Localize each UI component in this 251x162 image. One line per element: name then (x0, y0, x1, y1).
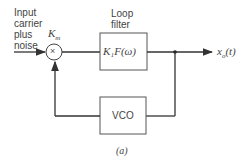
input-label: Input carrier plus noise (14, 7, 42, 51)
output-argument: (t) (225, 45, 235, 57)
loop-filter-title-line: filter (111, 19, 133, 30)
input-label-line: noise (14, 40, 42, 51)
pll-block-diagram: Input carrier plus noise Km × Loop filte… (0, 0, 251, 162)
input-label-line: Input (14, 7, 42, 18)
figure-caption: (a) (116, 145, 128, 156)
multiplier-gain-label: Km (48, 28, 60, 44)
vco-label: VCO (112, 110, 134, 121)
output-label: xo(t) (217, 46, 236, 62)
loop-filter-title: Loop filter (111, 8, 133, 30)
loop-filter-title-line: Loop (111, 8, 133, 19)
gain-subscript: m (55, 34, 60, 42)
loop-filter-transfer-function: K₁F(ω) (103, 46, 136, 57)
multiply-icon: × (50, 46, 55, 57)
input-label-line: carrier (14, 18, 42, 29)
input-label-line: plus (14, 29, 42, 40)
